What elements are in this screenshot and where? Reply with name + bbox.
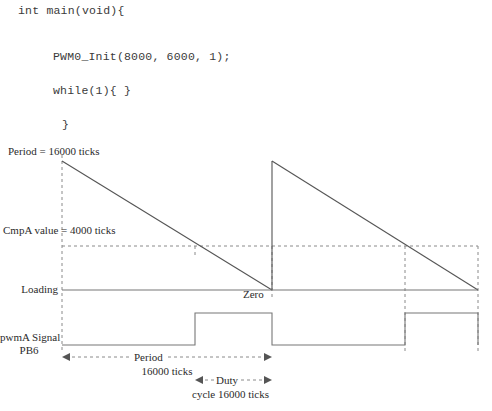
- label-loading: Loading: [20, 283, 58, 296]
- label-zero: Zero: [243, 288, 264, 301]
- label-pwma-signal: pwmA Signal PB6: [0, 331, 58, 356]
- label-period-ticks: 16000 ticks: [62, 365, 272, 378]
- pwm-timing-diagram: Period = 16000 ticks CmpA value = 4000 t…: [0, 0, 492, 411]
- period-arrow-right-head: [264, 353, 272, 361]
- label-duty-ticks: cycle 16000 ticks: [189, 388, 272, 401]
- label-cmpa-value: CmpA value = 4000 ticks: [3, 224, 116, 237]
- pwm-waveform-svg: [0, 0, 492, 411]
- label-period-top: Period = 16000 ticks: [8, 145, 99, 158]
- label-period-arrow: Period: [132, 351, 165, 364]
- label-duty-arrow: Duty: [214, 374, 240, 387]
- period-arrow-left-head: [62, 353, 70, 361]
- pwma-output-waveform: [62, 313, 478, 345]
- counter-ramp-cycle-2: [272, 161, 478, 290]
